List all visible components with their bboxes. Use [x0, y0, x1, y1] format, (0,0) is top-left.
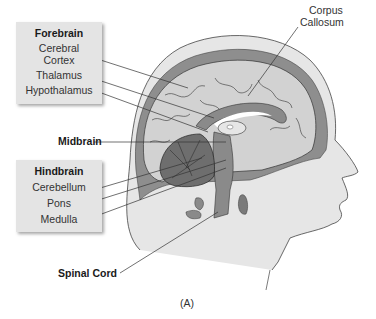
label-spinal-cord: Spinal Cord	[58, 267, 117, 279]
label-cerebral-cortex: Cerebral Cortex	[16, 42, 102, 66]
forebrain-label-box: Forebrain Cerebral Cortex Thalamus Hypot…	[16, 22, 102, 104]
figure-caption: (A)	[180, 297, 194, 309]
label-pons: Pons	[16, 197, 102, 209]
label-corpus-callosum: Corpus Callosum	[300, 4, 344, 28]
hindbrain-title: Hindbrain	[16, 165, 102, 177]
label-medulla: Medulla	[16, 213, 102, 225]
label-hypothalamus: Hypothalamus	[16, 84, 102, 96]
label-thalamus: Thalamus	[16, 69, 102, 81]
forebrain-title: Forebrain	[16, 27, 102, 39]
label-cerebellum: Cerebellum	[16, 181, 102, 193]
hindbrain-label-box: Hindbrain Cerebellum Pons Medulla	[16, 160, 102, 232]
label-midbrain: Midbrain	[58, 135, 102, 147]
